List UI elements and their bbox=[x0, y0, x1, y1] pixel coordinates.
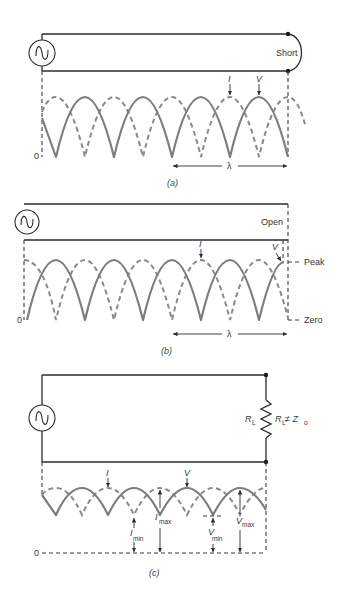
current-label: I bbox=[106, 468, 109, 478]
voltage-label: V bbox=[184, 468, 191, 478]
caption-a: (a) bbox=[167, 178, 178, 188]
svg-text:L: L bbox=[252, 419, 256, 426]
wavelength-label: λ bbox=[227, 161, 232, 171]
load-condition-label: R bbox=[275, 414, 282, 424]
voltage-arrow bbox=[276, 253, 281, 261]
caption-b: (b) bbox=[161, 346, 172, 356]
panel-c-mismatched-load: R L R L ≠ Z o 0 I V I min I max V bbox=[29, 373, 308, 578]
terminal-dot bbox=[264, 373, 268, 377]
current-standing-wave bbox=[24, 260, 288, 320]
panel-b-open-circuit: Open 0 I V Peak Zero λ (b) bbox=[15, 204, 325, 356]
ac-source-icon bbox=[29, 405, 55, 431]
current-label: I bbox=[228, 74, 231, 84]
zero-label: 0 bbox=[34, 548, 39, 558]
load-resistor-icon bbox=[261, 400, 271, 438]
caption-c: (c) bbox=[149, 568, 160, 578]
svg-text:min: min bbox=[212, 535, 223, 542]
voltage-standing-wave bbox=[27, 260, 284, 320]
short-label: Short bbox=[276, 48, 298, 58]
svg-text:min: min bbox=[133, 535, 144, 542]
panel-a-short-circuit: Short 0 I V λ (a) bbox=[29, 32, 306, 188]
zero-label: 0 bbox=[34, 151, 39, 161]
current-standing-wave bbox=[42, 488, 266, 515]
transmission-line-standing-wave-diagram: Short 0 I V λ (a) Open 0 bbox=[0, 0, 340, 591]
voltage-label: V bbox=[272, 242, 279, 252]
zero-label: 0 bbox=[17, 315, 22, 325]
imax-label: I bbox=[155, 512, 158, 522]
wavelength-label: λ bbox=[227, 329, 232, 339]
svg-text:max: max bbox=[159, 518, 172, 525]
zero-level-label: Zero bbox=[304, 315, 323, 325]
svg-text:o: o bbox=[304, 419, 308, 426]
open-label: Open bbox=[261, 217, 283, 227]
voltage-standing-wave bbox=[42, 97, 288, 157]
peak-label: Peak bbox=[304, 257, 325, 267]
voltage-label: V bbox=[256, 74, 263, 84]
ac-source-icon bbox=[29, 40, 55, 66]
load-label: R bbox=[245, 414, 252, 424]
terminal-dot bbox=[286, 32, 290, 36]
svg-text:≠ Z: ≠ Z bbox=[285, 414, 298, 424]
ac-source-icon bbox=[15, 210, 39, 234]
svg-text:max: max bbox=[242, 521, 255, 528]
